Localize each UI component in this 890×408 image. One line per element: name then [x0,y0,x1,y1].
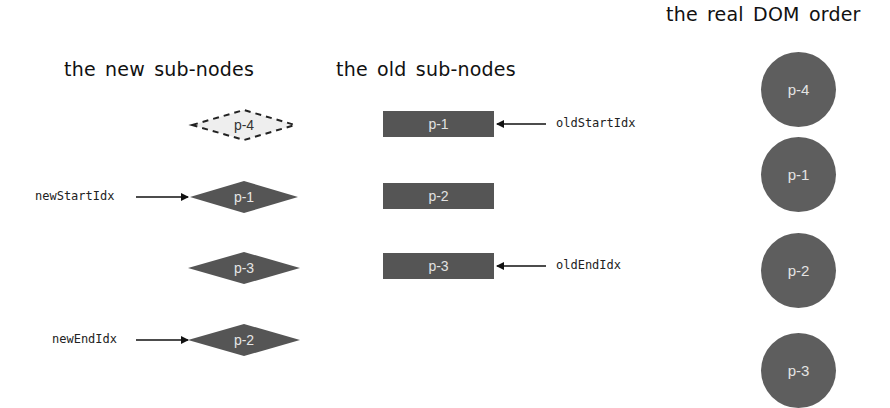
pointer-old-start-idx: oldStartIdx [556,116,635,130]
dom-node-p2-label: p-2 [788,262,810,279]
dom-node-p4: p-4 [761,52,836,127]
dom-node-p1-label: p-1 [788,166,810,183]
dom-node-p1: p-1 [761,137,836,212]
pointer-new-start-idx: newStartIdx [35,189,114,203]
old-node-p2: p-2 [383,183,494,209]
dom-node-p4-label: p-4 [788,81,810,98]
old-node-p2-label: p-2 [428,188,448,204]
new-node-p3-diamond [188,252,300,284]
new-node-p2-diamond [188,324,300,356]
pointer-old-end-idx: oldEndIdx [556,258,621,272]
dom-node-p3: p-3 [761,333,836,408]
pointer-new-end-idx: newEndIdx [52,332,117,346]
old-node-p1: p-1 [383,111,494,137]
old-node-p1-label: p-1 [428,116,448,132]
old-node-p3: p-3 [383,253,494,279]
dom-node-p3-label: p-3 [788,362,810,379]
new-node-p1-diamond [190,181,298,213]
dom-node-p2: p-2 [761,233,836,308]
new-node-p4-diamond-dashed [192,110,295,140]
old-node-p3-label: p-3 [428,258,448,274]
